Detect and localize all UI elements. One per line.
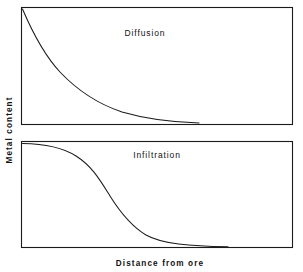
infiltration-panel-label: Infiltration xyxy=(133,150,181,160)
diffusion-panel-label: Diffusion xyxy=(124,28,165,38)
figure-container: Diffusion Infiltration Distance from ore… xyxy=(0,0,303,272)
panel-diffusion: Diffusion xyxy=(22,8,293,125)
y-axis-title: Metal content xyxy=(5,96,14,163)
plot-canvas: Diffusion Infiltration Distance from ore… xyxy=(0,0,303,272)
diffusion-axes-frame xyxy=(22,8,293,125)
x-axis-title: Distance from ore xyxy=(116,259,204,268)
panel-infiltration: Infiltration xyxy=(22,142,293,248)
